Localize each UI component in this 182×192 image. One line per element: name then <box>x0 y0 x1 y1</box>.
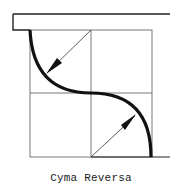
cyma-reversa-diagram <box>0 0 182 192</box>
top-fillet <box>13 14 30 30</box>
diagram-caption: Cyma Reversa <box>0 172 182 184</box>
s-curve-profile <box>30 30 151 157</box>
radius-arrow-lower-head <box>121 114 136 130</box>
